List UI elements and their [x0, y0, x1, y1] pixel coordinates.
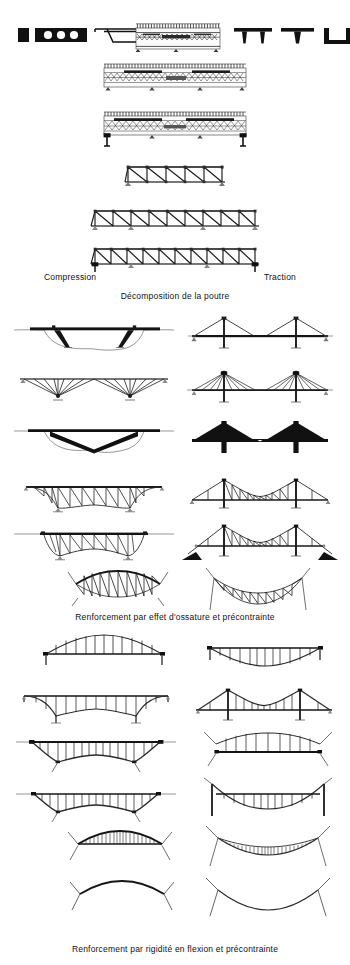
bridge-morphology-plate: Compression Traction Décomposition de la…	[0, 0, 350, 965]
single-tee-section	[281, 28, 314, 44]
truss-stiffened-arch-beam	[14, 478, 174, 518]
suspension-truss-deck	[180, 474, 340, 518]
cable-stayed-silhouette-solid	[180, 418, 340, 462]
u-channel-section	[324, 28, 350, 44]
arch-with-spandrel-posts	[34, 632, 174, 668]
arch-tied-spandrel	[16, 684, 176, 726]
caption-traction: Traction	[264, 272, 296, 282]
caption-reinforcement-stiffness: Renforcement par rigidité en flexion et …	[72, 944, 278, 954]
arch-deck-above-posts	[16, 734, 176, 776]
concrete-beam-two-span	[100, 62, 250, 96]
solid-cantilever-silhouette	[14, 420, 174, 462]
warren-truss-short	[120, 160, 230, 188]
warren-truss-long	[85, 242, 265, 274]
warren-truss-medium	[85, 204, 265, 232]
reinforced-concrete-slab-section	[136, 24, 220, 52]
caption-reinforcement-frame: Renforcement par effet d'ossature et pré…	[75, 612, 275, 622]
caption-compression: Compression	[44, 272, 96, 282]
voided-slab-section	[35, 28, 87, 42]
caption-decomposition: Décomposition de la poutre	[121, 291, 230, 301]
strutted-beam-over-valley	[14, 316, 174, 358]
solid-rectangular-section	[18, 28, 29, 42]
suspension-two-tower-hangers	[188, 682, 340, 726]
bare-arch-rib	[60, 876, 184, 918]
suspension-catenary-hangers	[196, 728, 340, 774]
arch-full-infill-posts	[58, 826, 182, 870]
cross-sections-row	[0, 10, 350, 54]
cable-stayed-two-tower-fan	[180, 368, 340, 410]
concrete-beam-cantilever	[100, 110, 250, 150]
lens-truss-sag	[198, 566, 318, 612]
cable-stayed-two-tower-harp	[180, 314, 340, 358]
lens-truss-arch	[58, 568, 178, 612]
suspension-truss-anchored	[180, 520, 340, 566]
suspension-with-hangers-shallow	[200, 640, 330, 674]
bowstring-truss-beam	[14, 524, 174, 564]
bare-suspension-cable	[196, 874, 340, 920]
fan-strut-beam	[14, 370, 174, 408]
double-tee-section	[234, 28, 272, 44]
suspension-full-infill-hangers	[196, 822, 340, 870]
suspension-deep-sag-hangers	[196, 776, 340, 824]
arch-low-rise-posts	[16, 782, 176, 824]
